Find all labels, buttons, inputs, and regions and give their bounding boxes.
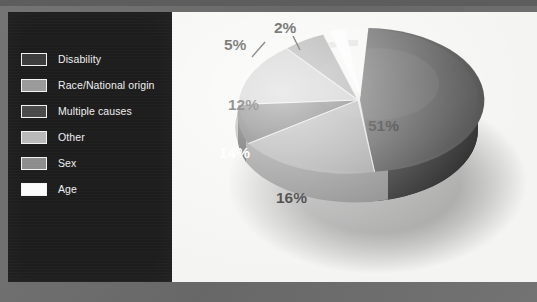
pie-label-disability: 51% bbox=[368, 118, 399, 134]
pie-label-race-national-origin: 16% bbox=[276, 190, 307, 206]
frame-top-edge bbox=[0, 0, 537, 6]
legend-item-other[interactable]: Other bbox=[21, 124, 171, 150]
legend-swatch-disability bbox=[21, 53, 47, 66]
legend-swatch-age bbox=[21, 183, 47, 196]
chart-legend: Disability Race/National origin Multiple… bbox=[8, 12, 172, 282]
legend-item-race-national-origin[interactable]: Race/National origin bbox=[21, 72, 171, 98]
legend-label-other: Other bbox=[58, 132, 85, 143]
pie-label-multiple-causes: 14% bbox=[219, 145, 250, 161]
legend-swatch-sex bbox=[21, 157, 47, 170]
pie-label-other: 12% bbox=[228, 97, 259, 113]
pie-wall-other bbox=[235, 112, 238, 143]
legend-label-age: Age bbox=[58, 184, 77, 195]
legend-item-multiple-causes[interactable]: Multiple causes bbox=[21, 98, 171, 124]
legend-label-race-national-origin: Race/National origin bbox=[58, 80, 155, 91]
leader-line-sex bbox=[252, 42, 265, 57]
legend-label-disability: Disability bbox=[58, 54, 101, 65]
legend-swatch-race-national-origin bbox=[21, 79, 47, 92]
pie-label-age: 2% bbox=[274, 20, 296, 36]
chart-plot-area: 51% 16% 14% 12% 5% 2% bbox=[172, 12, 537, 282]
legend-item-list: Disability Race/National origin Multiple… bbox=[21, 46, 171, 202]
legend-item-disability[interactable]: Disability bbox=[21, 46, 171, 72]
legend-item-age[interactable]: Age bbox=[21, 176, 171, 202]
legend-swatch-multiple-causes bbox=[21, 105, 47, 118]
legend-label-sex: Sex bbox=[58, 158, 76, 169]
pie-label-sex: 5% bbox=[224, 37, 246, 53]
pie-stage: 51% 16% 14% 12% 5% 2% bbox=[172, 12, 537, 282]
legend-item-sex[interactable]: Sex bbox=[21, 150, 171, 176]
pie-chart-figure: Disability Race/National origin Multiple… bbox=[0, 0, 537, 302]
legend-label-multiple-causes: Multiple causes bbox=[58, 106, 132, 117]
legend-swatch-other bbox=[21, 131, 47, 144]
